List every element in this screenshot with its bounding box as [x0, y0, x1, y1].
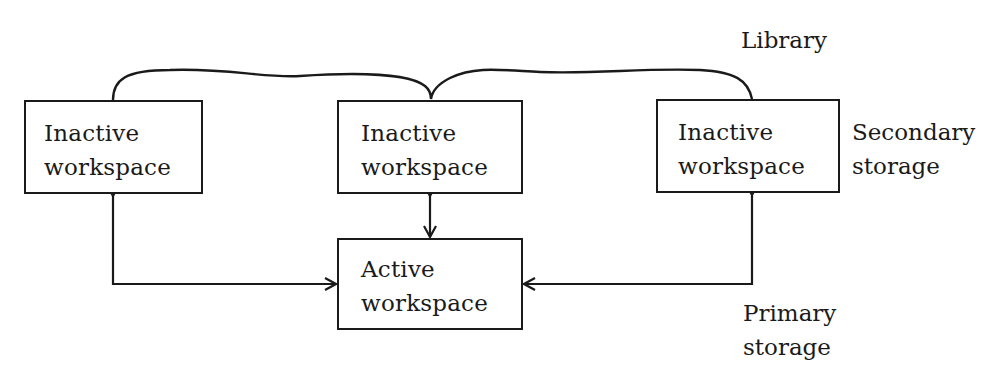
- library-brace: [113, 70, 752, 100]
- label-line: Primary: [743, 296, 836, 330]
- node-label-line: Active: [361, 252, 488, 286]
- label-line: Secondary: [852, 115, 975, 149]
- arrow-inactive1-active: [113, 196, 336, 284]
- node-label-line: workspace: [361, 286, 488, 320]
- arrow-inactive3-active: [524, 195, 752, 284]
- node-label-line: workspace: [361, 150, 488, 184]
- inactive-workspace-box-3: Inactive workspace: [656, 99, 840, 193]
- node-label-line: Inactive: [44, 116, 171, 150]
- node-label: Inactive workspace: [678, 115, 805, 183]
- node-label-line: Inactive: [678, 115, 805, 149]
- node-label: Inactive workspace: [361, 116, 488, 184]
- secondary-storage-label: Secondary storage: [852, 115, 975, 183]
- node-label-line: Inactive: [361, 116, 488, 150]
- library-label: Library: [741, 23, 827, 57]
- label-line: storage: [852, 149, 975, 183]
- inactive-workspace-box-2: Inactive workspace: [337, 100, 523, 194]
- active-workspace-box: Active workspace: [337, 238, 523, 330]
- node-label-line: workspace: [678, 149, 805, 183]
- node-label: Active workspace: [361, 252, 488, 320]
- inactive-workspace-box-1: Inactive workspace: [24, 100, 203, 194]
- node-label-line: workspace: [44, 150, 171, 184]
- label-line: storage: [743, 330, 836, 364]
- node-label: Inactive workspace: [44, 116, 171, 184]
- primary-storage-label: Primary storage: [743, 296, 836, 364]
